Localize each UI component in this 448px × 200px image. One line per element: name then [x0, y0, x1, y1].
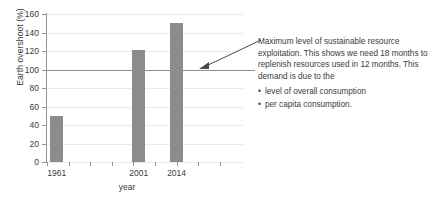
bar-chart: Earth overshoot (%) 02040608010012014016… — [0, 0, 245, 200]
x-axis-title: year — [47, 182, 207, 192]
x-tick-mark — [90, 162, 91, 166]
gridline — [47, 33, 243, 34]
y-tick-mark — [42, 33, 47, 34]
y-axis-title: Earth overshoot (%) — [15, 0, 25, 107]
x-tick-label: 1961 — [37, 168, 77, 178]
gridline — [47, 162, 243, 163]
y-tick-mark — [42, 14, 47, 15]
annotation-arrow-icon — [195, 38, 265, 74]
bar — [170, 23, 183, 162]
gridline — [47, 14, 243, 15]
x-tick-mark — [69, 162, 70, 166]
y-tick-mark — [42, 144, 47, 145]
y-tick: 40 — [42, 125, 47, 126]
annotation-paragraph: Maximum level of sustainable resource ex… — [258, 36, 444, 82]
x-tick-mark — [198, 162, 199, 166]
x-tick-label: 2001 — [119, 168, 159, 178]
y-tick: 120 — [42, 51, 47, 52]
y-tick-label: 40 — [30, 120, 39, 130]
y-tick-label: 140 — [25, 28, 39, 38]
y-tick-label: 160 — [25, 9, 39, 19]
x-tick-mark — [112, 162, 113, 166]
x-tick-label: 2014 — [157, 168, 197, 178]
x-tick-mark — [177, 162, 178, 166]
bar — [132, 50, 145, 162]
y-tick-label: 0 — [34, 157, 39, 167]
y-tick-label: 120 — [25, 46, 39, 56]
y-tick-label: 100 — [25, 65, 39, 75]
y-tick-label: 20 — [30, 139, 39, 149]
list-item: per capita consumption. — [258, 99, 444, 111]
annotation-bullet-list: level of overall consumption per capita … — [258, 86, 444, 111]
y-tick-mark — [42, 51, 47, 52]
figure: Earth overshoot (%) 02040608010012014016… — [0, 0, 448, 200]
y-tick: 60 — [42, 107, 47, 108]
x-tick-mark — [133, 162, 134, 166]
y-tick-label: 60 — [30, 102, 39, 112]
y-tick: 20 — [42, 144, 47, 145]
list-item: level of overall consumption — [258, 86, 444, 98]
x-tick-mark — [155, 162, 156, 166]
y-tick: 140 — [42, 33, 47, 34]
y-tick-mark — [42, 88, 47, 89]
y-tick: 160 — [42, 14, 47, 15]
x-tick-mark — [220, 162, 221, 166]
y-tick-label: 80 — [30, 83, 39, 93]
annotation-text: Maximum level of sustainable resource ex… — [258, 36, 444, 111]
y-tick-mark — [42, 107, 47, 108]
y-tick: 80 — [42, 88, 47, 89]
x-tick-mark — [47, 162, 48, 166]
bar — [50, 116, 63, 162]
y-tick-mark — [42, 125, 47, 126]
